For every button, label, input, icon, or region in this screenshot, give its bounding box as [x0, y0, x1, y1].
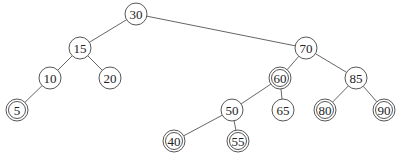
tree-node-80: 80: [314, 99, 336, 121]
node-label: 55: [232, 134, 245, 149]
node-label: 20: [104, 71, 117, 86]
node-label: 40: [168, 134, 181, 149]
tree-diagram: 301570102060855506580904055: [0, 0, 400, 158]
edge-60-65: [281, 89, 282, 99]
tree-nodes: 301570102060855506580904055: [6, 3, 395, 152]
edge-50-40: [184, 115, 223, 136]
tree-node-50: 50: [221, 99, 243, 121]
tree-node-10: 10: [39, 67, 61, 89]
node-label: 5: [14, 103, 21, 118]
tree-node-20: 20: [99, 67, 121, 89]
node-label: 60: [274, 71, 287, 86]
node-label: 90: [378, 103, 391, 118]
tree-node-55: 55: [227, 130, 249, 152]
node-label: 80: [319, 103, 332, 118]
edge-10-5: [25, 86, 42, 103]
node-label: 85: [350, 71, 363, 86]
node-label: 70: [300, 41, 313, 56]
edge-60-50: [241, 84, 271, 104]
tree-node-85: 85: [345, 67, 367, 89]
node-label: 30: [130, 7, 143, 22]
edge-50-55: [234, 121, 236, 130]
node-label: 50: [226, 103, 239, 118]
tree-node-65: 65: [272, 99, 294, 121]
edge-70-85: [315, 54, 346, 73]
edge-85-80: [333, 86, 349, 102]
node-label: 10: [44, 71, 57, 86]
tree-node-40: 40: [163, 130, 185, 152]
tree-node-60: 60: [269, 67, 291, 89]
edge-30-70: [147, 16, 295, 46]
tree-node-15: 15: [69, 37, 91, 59]
edge-30-15: [89, 20, 126, 43]
edge-85-90: [363, 86, 377, 101]
node-label: 15: [74, 41, 87, 56]
tree-node-30: 30: [125, 3, 147, 25]
edge-15-10: [58, 56, 72, 70]
tree-node-5: 5: [6, 99, 28, 121]
tree-node-90: 90: [373, 99, 395, 121]
node-label: 65: [277, 103, 290, 118]
edge-70-60: [287, 56, 299, 69]
edge-15-20: [88, 56, 102, 70]
tree-node-70: 70: [295, 37, 317, 59]
